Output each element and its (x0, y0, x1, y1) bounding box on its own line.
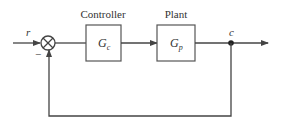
output-signal-label: c (229, 26, 234, 38)
controller-title: Controller (80, 8, 126, 20)
plant-title: Plant (165, 8, 188, 20)
input-signal-label: r (26, 26, 31, 38)
feedback-sign-label: − (35, 48, 41, 60)
feedback-path (49, 43, 231, 116)
summing-junction (41, 36, 55, 50)
block-diagram: r − Controller Gc Plant Gp c (0, 0, 281, 123)
